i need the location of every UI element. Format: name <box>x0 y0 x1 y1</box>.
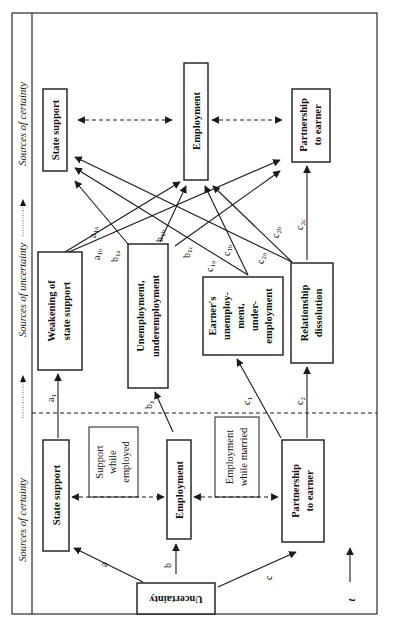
diagram-canvas: Sources of certainty Sources of uncertai… <box>0 0 396 622</box>
band-label-uncertainty: Sources of uncertainty <box>17 243 28 337</box>
svg-text:Partnership: Partnership <box>290 464 301 518</box>
time-axis-label: t <box>346 597 357 601</box>
unemployment-box: Unemployment, underemployment <box>128 244 168 388</box>
label-b1b: b1b <box>154 230 167 243</box>
weakening-box: Weakening of state support <box>38 252 82 370</box>
svg-text:to earner: to earner <box>304 470 315 511</box>
svg-text:dissolution: dissolution <box>313 289 324 338</box>
label-c1a: c1a <box>204 260 217 272</box>
svg-text:Earner's: Earner's <box>207 296 218 335</box>
uncertainty-box: Uncertainty <box>137 583 215 614</box>
svg-text:Unemployment,: Unemployment, <box>135 280 146 352</box>
edge-b1 <box>155 392 173 432</box>
svg-text:Employment: Employment <box>224 430 235 484</box>
svg-text:Weakening of: Weakening of <box>46 280 57 342</box>
label-c2: c2 <box>294 397 307 405</box>
label-a1: a1 <box>45 394 58 402</box>
employment-box-2: Employment <box>184 63 208 180</box>
state-support-box-1: State support <box>43 440 69 551</box>
svg-text:ment,: ment, <box>235 303 246 329</box>
svg-text:under-: under- <box>249 301 260 331</box>
band-arrow-1-head <box>20 375 26 382</box>
partnership-box-1: Partnership to earner <box>282 440 324 542</box>
label-c1b: c1b <box>221 244 234 256</box>
edge-a1b <box>69 160 280 252</box>
edge-b1a <box>75 181 128 244</box>
band-label-certainty-right: Sources of certainty <box>17 82 28 166</box>
state-support-box-2: State support <box>43 89 67 171</box>
svg-text:State support: State support <box>51 464 62 525</box>
band-label-certainty-left: Sources of certainty <box>17 478 28 562</box>
svg-text:employment: employment <box>263 288 274 344</box>
label-a1a: a1a <box>87 226 100 238</box>
label-c2a: c2a <box>255 252 268 264</box>
partnership-box-2: Partnership to earner <box>292 89 330 162</box>
svg-text:to earner: to earner <box>312 104 323 145</box>
label-c: c <box>263 575 274 580</box>
svg-text:while: while <box>107 450 118 474</box>
svg-text:Relationship: Relationship <box>299 285 310 342</box>
svg-text:while married: while married <box>238 427 249 486</box>
label-b1c: b1c <box>181 246 194 258</box>
label-c2c: c2c <box>294 219 307 230</box>
label-b: b <box>162 563 173 568</box>
relationship-dissolution-box: Relationship dissolution <box>291 263 333 363</box>
label-a1b: a1b <box>91 248 104 260</box>
svg-text:unemploy-: unemploy- <box>221 292 232 340</box>
svg-text:underemployment: underemployment <box>150 274 161 357</box>
uncertainty-label: Uncertainty <box>148 594 202 605</box>
svg-text:state support: state support <box>61 281 72 340</box>
band-arrow-2-head <box>20 199 26 206</box>
support-while-employed-box: Support while employed <box>89 427 138 497</box>
label-c2b: c2b <box>270 226 283 238</box>
label-c1: c1 <box>241 397 254 405</box>
svg-text:Employment: Employment <box>174 461 185 519</box>
employment-while-married-box: Employment while married <box>215 417 259 497</box>
svg-text:Partnership: Partnership <box>298 98 309 152</box>
edge-c2b <box>213 186 292 262</box>
label-a: a <box>98 562 109 567</box>
edge-c <box>218 552 296 587</box>
earners-unemployment-box: Earner's unemploy- ment, under- employme… <box>203 277 283 355</box>
svg-text:Employment: Employment <box>191 92 202 150</box>
label-b1: b1 <box>143 400 156 409</box>
label-b1a: b1a <box>109 250 122 263</box>
svg-text:State support: State support <box>50 99 61 160</box>
svg-text:employed: employed <box>120 441 131 483</box>
svg-text:Support: Support <box>94 445 105 478</box>
employment-box-1: Employment <box>167 440 191 539</box>
